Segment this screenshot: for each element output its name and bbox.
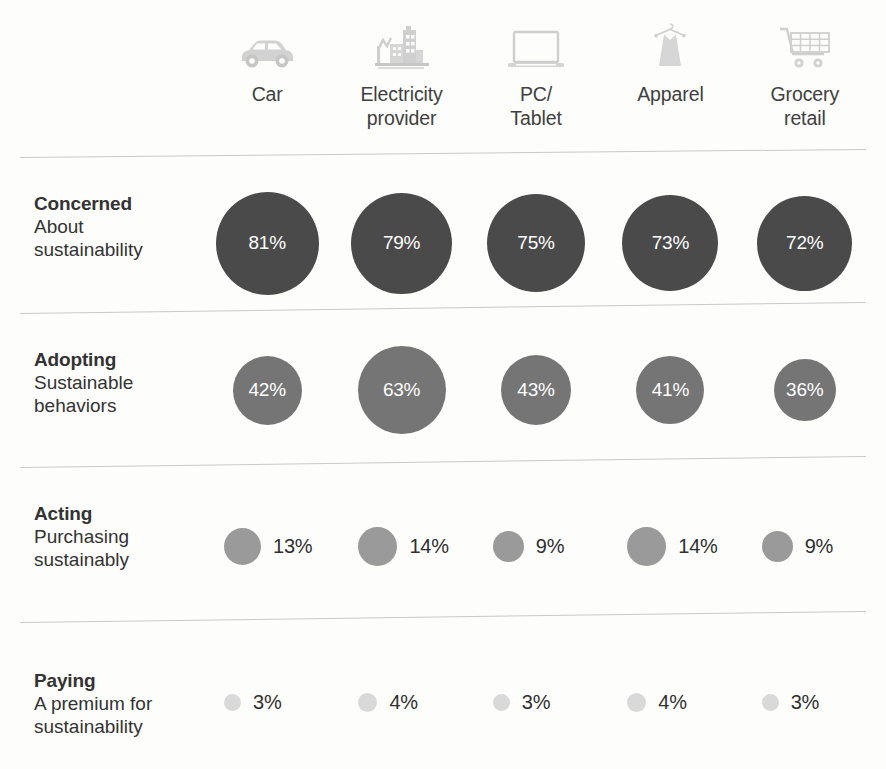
bubble: 73% (622, 195, 718, 291)
bubble: 42% (233, 356, 302, 425)
column-header-3: Apparel (603, 22, 737, 142)
bubble-value: 73% (652, 232, 689, 254)
bubble: 41% (636, 356, 704, 424)
bubble-cell[interactable]: 81% (200, 178, 334, 308)
bubble-value: 43% (517, 379, 554, 401)
row-label-0: ConcernedAbout sustainability (34, 192, 209, 261)
bubble-value: 14% (678, 535, 717, 558)
bubble-row-2: 13%14%9%14%9% (200, 496, 872, 596)
bubble-row-1: 42%63%43%41%36% (200, 334, 872, 446)
bubble-value: 3% (791, 691, 820, 714)
column-header-2: PC/ Tablet (469, 22, 603, 142)
bubble: 36% (774, 359, 836, 421)
bubble (358, 527, 397, 566)
row-label-sub: Sustainable behaviors (34, 371, 209, 417)
row-label-lead: Paying (34, 669, 209, 692)
bubble: 43% (501, 355, 571, 425)
car-icon (237, 22, 297, 70)
column-header-1: Electricity provider (334, 22, 468, 142)
bubble (627, 693, 646, 712)
bubble-cell[interactable]: 9% (738, 496, 872, 596)
row-label-1: AdoptingSustainable behaviors (34, 348, 209, 417)
bubble-value: 14% (409, 535, 448, 558)
row-separator-2 (20, 456, 866, 468)
row-label-sub: About sustainability (34, 215, 209, 261)
dress-icon (652, 22, 688, 70)
bubble-value: 42% (248, 379, 285, 401)
column-label: PC/ Tablet (510, 82, 561, 130)
bubble-value: 3% (522, 691, 551, 714)
data-row-2: ActingPurchasing sustainably13%14%9%14%9… (0, 496, 886, 596)
bubble-value: 79% (383, 232, 420, 254)
column-label: Grocery retail (771, 82, 840, 130)
data-row-0: ConcernedAbout sustainability81%79%75%73… (0, 178, 886, 308)
bubble: 75% (487, 194, 585, 292)
bubble-cell[interactable]: 79% (334, 178, 468, 308)
bubble-value: 41% (652, 379, 689, 401)
row-separator-0 (20, 149, 866, 158)
bubble-value: 63% (383, 379, 420, 401)
row-label-3: PayingA premium for sustainability (34, 669, 209, 738)
bubble (358, 693, 377, 712)
bubble (493, 694, 510, 711)
bubble: 81% (216, 192, 319, 295)
bubble-cell[interactable]: 3% (469, 655, 603, 750)
bubble-value: 72% (786, 232, 823, 254)
factory-icon (375, 22, 429, 70)
bubble-value: 4% (658, 691, 687, 714)
bubble (493, 531, 524, 562)
bubble-value: 4% (389, 691, 418, 714)
bubble-row-3: 3%4%3%4%3% (200, 655, 872, 750)
bubble-cell[interactable]: 41% (603, 334, 737, 446)
bubble: 79% (351, 193, 452, 294)
bubble: 72% (757, 196, 852, 291)
row-label-2: ActingPurchasing sustainably (34, 502, 209, 571)
bubble-cell[interactable]: 3% (200, 655, 334, 750)
row-label-sub: Purchasing sustainably (34, 525, 209, 571)
bubble-cell[interactable]: 4% (334, 655, 468, 750)
sustainability-bubble-chart: CarElectricity providerPC/ TabletApparel… (0, 0, 886, 769)
column-header-4: Grocery retail (738, 22, 872, 142)
bubble (627, 527, 666, 566)
bubble-value: 81% (248, 232, 285, 254)
bubble-value: 75% (517, 232, 554, 254)
row-label-lead: Acting (34, 502, 209, 525)
laptop-icon (508, 22, 564, 70)
bubble-value: 36% (786, 379, 823, 401)
bubble-cell[interactable]: 13% (200, 496, 334, 596)
bubble (224, 694, 241, 711)
bubble-cell[interactable]: 73% (603, 178, 737, 308)
bubble (762, 694, 779, 711)
column-label: Apparel (637, 82, 704, 106)
bubble-value: 9% (536, 535, 565, 558)
column-header-row: CarElectricity providerPC/ TabletApparel… (200, 22, 872, 142)
row-label-sub: A premium for sustainability (34, 692, 209, 738)
bubble-cell[interactable]: 3% (738, 655, 872, 750)
row-label-lead: Adopting (34, 348, 209, 371)
bubble-value: 13% (273, 535, 312, 558)
bubble-cell[interactable]: 36% (738, 334, 872, 446)
row-label-lead: Concerned (34, 192, 209, 215)
bubble-value: 3% (253, 691, 282, 714)
bubble-cell[interactable]: 14% (334, 496, 468, 596)
bubble-cell[interactable]: 72% (738, 178, 872, 308)
bubble-cell[interactable]: 43% (469, 334, 603, 446)
bubble: 63% (358, 346, 446, 434)
bubble-cell[interactable]: 75% (469, 178, 603, 308)
bubble-cell[interactable]: 14% (603, 496, 737, 596)
column-label: Electricity provider (360, 82, 442, 130)
shopping-cart-icon (778, 22, 832, 70)
bubble-cell[interactable]: 9% (469, 496, 603, 596)
row-separator-3 (20, 611, 866, 623)
data-row-3: PayingA premium for sustainability3%4%3%… (0, 655, 886, 750)
bubble-value: 9% (805, 535, 834, 558)
column-label: Car (252, 82, 283, 106)
column-header-0: Car (200, 22, 334, 142)
bubble-row-0: 81%79%75%73%72% (200, 178, 872, 308)
bubble-cell[interactable]: 4% (603, 655, 737, 750)
data-row-1: AdoptingSustainable behaviors42%63%43%41… (0, 334, 886, 446)
bubble (224, 528, 261, 565)
bubble-cell[interactable]: 42% (200, 334, 334, 446)
bubble-cell[interactable]: 63% (334, 334, 468, 446)
bubble (762, 531, 793, 562)
